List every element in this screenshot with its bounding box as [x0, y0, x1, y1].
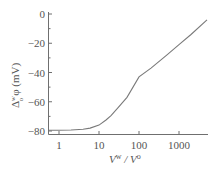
- axes: [49, 12, 209, 135]
- svg-text:Δwoφ (mV): Δwoφ (mV): [9, 62, 25, 108]
- chart: 0−20−40−60−80 1101001000 Vw / Vo Δwoφ (m…: [0, 0, 217, 174]
- x-axis-title: Vw / Vo: [109, 152, 141, 165]
- y-tick-label: −40: [28, 67, 46, 79]
- x-tick-label: 100: [131, 139, 148, 151]
- y-tick-label: −80: [28, 125, 46, 137]
- y-tick-label: −20: [28, 37, 46, 49]
- x-tick-label: 1000: [168, 139, 191, 151]
- x-tick-label: 10: [94, 139, 106, 151]
- y-tick-label: 0: [40, 8, 46, 20]
- x-tick-label: 1: [56, 139, 62, 151]
- svg-text:Vw / Vo: Vw / Vo: [109, 152, 141, 165]
- y-axis-title: Δwoφ (mV): [9, 62, 25, 108]
- y-tick-label: −60: [28, 96, 46, 108]
- data-line: [49, 20, 207, 130]
